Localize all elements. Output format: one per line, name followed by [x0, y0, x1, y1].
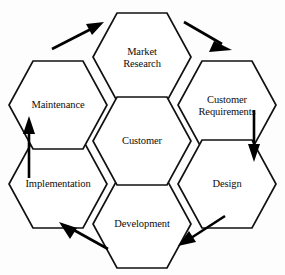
hexagon-design[interactable]: [178, 140, 276, 228]
hexagon-development[interactable]: [93, 180, 191, 268]
arrow-market-research-to-customer-requirements: [184, 22, 232, 52]
hexagon-customer[interactable]: [93, 97, 191, 185]
diagram-svg: [0, 0, 285, 275]
hexagon-implementation[interactable]: [9, 140, 107, 228]
arrow-maintenance-to-market-research: [52, 22, 104, 49]
hexagon-customer-requirements[interactable]: [178, 61, 276, 149]
hexagon-maintenance[interactable]: [9, 61, 107, 149]
hexagon-market-research[interactable]: [93, 13, 191, 101]
diagram-canvas: Market Research Customer Requirements De…: [0, 0, 285, 275]
hexagon-group: [9, 13, 276, 268]
